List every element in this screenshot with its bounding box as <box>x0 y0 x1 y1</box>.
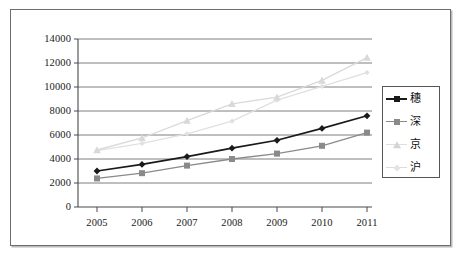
line-marker-icon <box>383 156 410 179</box>
y-tick-label-14000: 14000 <box>21 33 71 44</box>
data-point-square <box>319 143 325 149</box>
y-tick-label-4000: 4000 <box>21 153 71 164</box>
data-point-diamond <box>274 137 281 144</box>
series-3 <box>94 70 369 153</box>
y-tick-label-10000: 10000 <box>21 81 71 92</box>
x-tick-label-2010: 2010 <box>297 217 347 228</box>
diamond-marker-icon <box>383 87 410 110</box>
data-point-diamond <box>364 112 371 119</box>
x-tick-label-2007: 2007 <box>162 217 212 228</box>
gridlines <box>78 39 372 183</box>
data-point-marker <box>184 131 189 136</box>
legend-item-sui[interactable]: 穗 <box>383 87 439 110</box>
chart-frame: 14000 12000 10000 8000 6000 4000 2000 0 … <box>10 9 451 246</box>
y-tick-label-2000: 2000 <box>21 177 71 188</box>
y-tick-label-0: 0 <box>21 201 71 212</box>
x-tick-label-2008: 2008 <box>207 217 257 228</box>
data-point-triangle <box>183 117 191 124</box>
legend-item-shen[interactable]: 深 <box>383 110 439 133</box>
data-point-diamond <box>229 145 236 152</box>
legend-item-hu[interactable]: 沪 <box>383 156 439 179</box>
series-1 <box>94 130 370 182</box>
x-tick-label-2009: 2009 <box>252 217 302 228</box>
data-point-diamond <box>94 168 101 175</box>
data-point-marker <box>319 84 324 89</box>
series-layer <box>93 54 371 182</box>
series-2 <box>93 54 371 153</box>
data-point-triangle <box>273 93 281 100</box>
y-tick-label-8000: 8000 <box>21 105 71 116</box>
data-point-square <box>139 170 145 176</box>
data-point-marker <box>229 119 234 124</box>
x-tick-marks <box>97 207 367 212</box>
legend-item-jing[interactable]: 京 <box>383 133 439 156</box>
series-line <box>97 116 367 171</box>
x-tick-label-2011: 2011 <box>342 217 392 228</box>
data-point-marker <box>364 70 369 75</box>
x-tick-label-2005: 2005 <box>72 217 122 228</box>
data-point-square <box>274 151 280 157</box>
data-point-square <box>184 163 190 169</box>
data-point-diamond <box>319 125 326 132</box>
data-point-square <box>94 175 100 181</box>
data-point-square <box>229 156 235 162</box>
legend-label-hu: 沪 <box>410 162 421 174</box>
x-tick-label-2006: 2006 <box>117 217 167 228</box>
data-point-square <box>364 130 370 136</box>
triangle-marker-icon <box>383 133 410 156</box>
square-marker-icon <box>383 110 410 133</box>
data-point-diamond <box>139 161 146 168</box>
y-tick-label-6000: 6000 <box>21 129 71 140</box>
legend-label-sui: 穗 <box>410 93 421 105</box>
data-point-marker <box>139 141 144 146</box>
legend-label-shen: 深 <box>410 116 421 128</box>
legend-label-jing: 京 <box>410 139 421 151</box>
data-point-triangle <box>363 54 371 61</box>
chart-legend: 穗 深 京 沪 <box>382 86 440 178</box>
y-tick-marks <box>74 39 78 207</box>
y-tick-label-12000: 12000 <box>21 57 71 68</box>
data-point-triangle <box>318 77 326 84</box>
